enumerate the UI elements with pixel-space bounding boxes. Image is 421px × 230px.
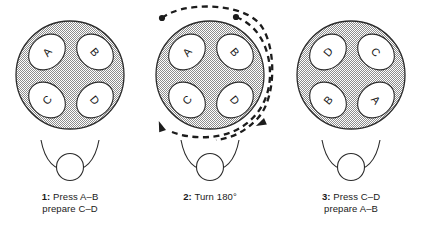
rotor-disc-3 bbox=[297, 21, 405, 129]
pedestal-3 bbox=[322, 140, 380, 181]
caption-text-a-1: Press A–B bbox=[53, 191, 98, 202]
pivot-knob-2 bbox=[197, 154, 224, 181]
caption-text-a-3: Press C–D bbox=[333, 191, 380, 202]
caption-line-1-step-3: 3: Press C–D bbox=[281, 191, 421, 203]
rotation-arrow-tail-dots bbox=[159, 14, 239, 21]
arrow-head-inner bbox=[154, 121, 168, 135]
caption-line-2-step-3: prepare A–B bbox=[281, 203, 421, 215]
step-number-1: 1: bbox=[42, 191, 51, 202]
panel-step-1: A B C D 1: Press A–B prepare C–D bbox=[0, 0, 140, 230]
caption-line-1-step-1: 1: Press A–B bbox=[0, 191, 140, 203]
caption-line-1-step-2: 2: Turn 180° bbox=[140, 191, 280, 203]
rotary-press-sequence-figure: A B C D 1: Press A–B prepare C–D bbox=[0, 0, 421, 230]
caption-text-a-2: Turn 180° bbox=[194, 191, 236, 202]
disc-stage-2: A B C D bbox=[140, 0, 280, 188]
disc-diagram-2: A B C D bbox=[140, 0, 285, 188]
panel-step-3: D C B A 3: Press C–D prepare A–B bbox=[281, 0, 421, 230]
step-number-2: 2: bbox=[183, 191, 192, 202]
pivot-knob-3 bbox=[338, 154, 365, 181]
caption-step-1: 1: Press A–B prepare C–D bbox=[0, 191, 140, 214]
pedestal-1 bbox=[41, 140, 99, 181]
caption-step-3: 3: Press C–D prepare A–B bbox=[281, 191, 421, 214]
disc-stage-3: D C B A bbox=[281, 0, 421, 188]
rotor-disc-2 bbox=[156, 21, 264, 129]
caption-line-2-step-1: prepare C–D bbox=[0, 203, 140, 215]
panel-step-2: A B C D bbox=[140, 0, 280, 230]
disc-diagram-3: D C B A bbox=[281, 0, 421, 188]
disc-diagram-1: A B C D bbox=[0, 0, 140, 188]
rotor-disc-1 bbox=[16, 21, 124, 129]
step-number-3: 3: bbox=[322, 191, 331, 202]
pedestal-2 bbox=[181, 140, 239, 181]
caption-step-2: 2: Turn 180° bbox=[140, 191, 280, 203]
arrow-tail-dot-inner bbox=[233, 14, 239, 20]
arrow-tail-dot-outer bbox=[159, 15, 165, 21]
disc-stage-1: A B C D bbox=[0, 0, 140, 188]
pivot-knob-1 bbox=[57, 154, 84, 181]
